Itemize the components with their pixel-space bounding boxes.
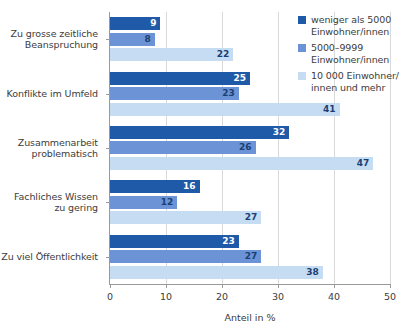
bar xyxy=(110,266,323,279)
category-label-line: Beanspruchung xyxy=(0,39,98,51)
category-tick xyxy=(106,94,110,95)
bar-row: 47 xyxy=(110,157,390,170)
bar-value-label: 27 xyxy=(241,211,257,224)
bar-group: 322647 xyxy=(110,121,390,175)
bar-group: 161227 xyxy=(110,175,390,229)
legend-label-line: Einwohner/innen xyxy=(311,54,420,66)
category-tick xyxy=(106,202,110,203)
legend-swatch xyxy=(298,16,306,24)
x-tick-mark xyxy=(222,284,223,288)
bar-value-label: 8 xyxy=(135,33,151,46)
x-axis-line xyxy=(109,284,390,285)
category-label: Konflikte im Umfeld xyxy=(0,88,98,100)
legend-item[interactable]: weniger als 5000Einwohner/innen xyxy=(296,14,420,37)
bar xyxy=(110,250,261,263)
bar-value-label: 16 xyxy=(180,180,196,193)
category-label-line: Zu viel Öffentlichkeit xyxy=(0,251,98,263)
legend-label: 10 000 Einwohner/innen und mehr xyxy=(311,70,420,93)
x-tick-mark xyxy=(166,284,167,288)
bar-row: 38 xyxy=(110,266,390,279)
legend-label-line: 5000–9999 xyxy=(311,42,420,54)
bar-value-label: 25 xyxy=(230,72,246,85)
category-label-line: zu gering xyxy=(0,202,98,214)
bar xyxy=(110,211,261,224)
legend-label-line: weniger als 5000 xyxy=(311,14,420,26)
category-label: Zu viel Öffentlichkeit xyxy=(0,251,98,263)
category-tick xyxy=(106,39,110,40)
bar-value-label: 23 xyxy=(219,235,235,248)
bar-row: 27 xyxy=(110,211,390,224)
bar xyxy=(110,157,373,170)
bar-value-label: 9 xyxy=(140,17,156,30)
category-axis-labels: Zu grosse zeitlicheBeanspruchungKonflikt… xyxy=(0,12,104,284)
x-tick-mark xyxy=(110,284,111,288)
x-tick-label: 20 xyxy=(207,291,237,302)
bar xyxy=(110,72,250,85)
x-tick-label: 40 xyxy=(319,291,349,302)
x-tick-label: 50 xyxy=(375,291,405,302)
bar-row: 12 xyxy=(110,196,390,209)
legend-label-line: Einwohner/innen xyxy=(311,26,420,38)
bar-value-label: 12 xyxy=(157,196,173,209)
bar xyxy=(110,103,340,116)
legend-label-line: innen und mehr xyxy=(311,82,420,94)
bar-row: 41 xyxy=(110,103,390,116)
bar-row: 26 xyxy=(110,141,390,154)
legend-item[interactable]: 10 000 Einwohner/innen und mehr xyxy=(296,70,420,93)
legend-swatch xyxy=(298,72,306,80)
bar-row: 27 xyxy=(110,250,390,263)
bar-value-label: 38 xyxy=(303,266,319,279)
x-tick-label: 30 xyxy=(263,291,293,302)
bar xyxy=(110,126,289,139)
bar-row: 32 xyxy=(110,126,390,139)
category-label-line: Fachliches Wissen xyxy=(0,191,98,203)
bar-value-label: 32 xyxy=(269,126,285,139)
category-label-line: Zu grosse zeitliche xyxy=(0,28,98,40)
x-tick-mark xyxy=(334,284,335,288)
category-tick xyxy=(106,148,110,149)
legend-label-line: 10 000 Einwohner/ xyxy=(311,70,420,82)
bar-group: 232738 xyxy=(110,230,390,284)
category-tick xyxy=(106,257,110,258)
bar-value-label: 27 xyxy=(241,250,257,263)
x-tick-mark xyxy=(390,284,391,288)
bar-row: 23 xyxy=(110,235,390,248)
bar-value-label: 22 xyxy=(213,48,229,61)
legend-label: 5000–9999Einwohner/innen xyxy=(311,42,420,65)
x-axis-title: Anteil in % xyxy=(110,312,390,323)
bar-chart: Zu grosse zeitlicheBeanspruchungKonflikt… xyxy=(0,0,420,334)
category-label: Zusammenarbeitproblematisch xyxy=(0,137,98,160)
category-label-line: Konflikte im Umfeld xyxy=(0,88,98,100)
bar-value-label: 47 xyxy=(353,157,369,170)
legend-label: weniger als 5000Einwohner/innen xyxy=(311,14,420,37)
legend-swatch xyxy=(298,44,306,52)
legend-item[interactable]: 5000–9999Einwohner/innen xyxy=(296,42,420,65)
bar-value-label: 23 xyxy=(219,87,235,100)
category-label-line: problematisch xyxy=(0,148,98,160)
bar-value-label: 26 xyxy=(236,141,252,154)
x-tick-mark xyxy=(278,284,279,288)
bar-value-label: 41 xyxy=(320,103,336,116)
chart-legend: weniger als 5000Einwohner/innen5000–9999… xyxy=(296,14,420,98)
category-label: Zu grosse zeitlicheBeanspruchung xyxy=(0,28,98,51)
bar xyxy=(110,141,256,154)
x-tick-label: 10 xyxy=(151,291,181,302)
category-label-line: Zusammenarbeit xyxy=(0,137,98,149)
bar-row: 16 xyxy=(110,180,390,193)
x-tick-label: 0 xyxy=(95,291,125,302)
category-label: Fachliches Wissenzu gering xyxy=(0,191,98,214)
